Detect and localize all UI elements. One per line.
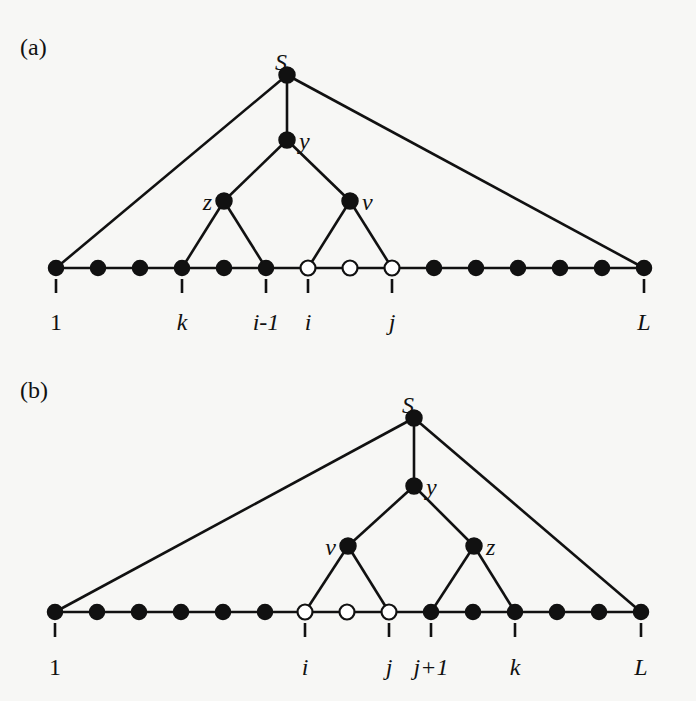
- filled-leaf-node: [133, 261, 148, 276]
- node-label: v: [362, 189, 373, 215]
- position-label: 1: [50, 309, 62, 335]
- position-label: 1: [49, 654, 61, 680]
- node-label: v: [325, 534, 336, 560]
- tree-edge: [224, 140, 287, 201]
- tree-edge: [348, 546, 389, 612]
- filled-leaf-node: [174, 605, 189, 620]
- panel-label: (a): [20, 34, 47, 60]
- tree-edge: [414, 418, 641, 612]
- open-leaf-node: [301, 261, 316, 276]
- diagram-canvas: (a)1ki-1ijLSyzv (b)1ijj+1kLSyvz: [0, 0, 696, 701]
- tree-edge: [55, 418, 414, 612]
- position-label: j+1: [411, 654, 449, 680]
- position-label: j: [386, 309, 396, 335]
- node-label: z: [485, 534, 496, 560]
- filled-leaf-node: [511, 261, 526, 276]
- internal-node-y: [406, 478, 422, 494]
- filled-leaf-node: [469, 261, 484, 276]
- internal-node-y: [279, 132, 295, 148]
- filled-leaf-node: [216, 605, 231, 620]
- tree-edge: [431, 546, 474, 612]
- node-label: z: [202, 189, 213, 215]
- tree-edge: [287, 75, 644, 268]
- tree-edge: [287, 140, 350, 201]
- filled-leaf-node: [49, 261, 64, 276]
- panel-a-tree: (a)1ki-1ijLSyzv: [20, 34, 652, 335]
- position-label: i: [302, 654, 309, 680]
- node-label: S: [402, 392, 414, 418]
- open-leaf-node: [343, 261, 358, 276]
- position-label: i-1: [253, 309, 280, 335]
- filled-leaf-node: [427, 261, 442, 276]
- internal-node-z: [216, 193, 232, 209]
- filled-leaf-node: [424, 605, 439, 620]
- open-leaf-node: [382, 605, 397, 620]
- filled-leaf-node: [90, 605, 105, 620]
- open-leaf-node: [298, 605, 313, 620]
- position-label: j: [383, 654, 393, 680]
- position-label: i: [305, 309, 312, 335]
- node-label: y: [424, 474, 437, 500]
- node-label: S: [275, 49, 287, 75]
- filled-leaf-node: [634, 605, 649, 620]
- filled-leaf-node: [592, 605, 607, 620]
- filled-leaf-node: [637, 261, 652, 276]
- position-label: L: [633, 654, 647, 680]
- filled-leaf-node: [553, 261, 568, 276]
- filled-leaf-node: [466, 605, 481, 620]
- filled-leaf-node: [550, 605, 565, 620]
- tree-edge: [308, 201, 350, 268]
- filled-leaf-node: [175, 261, 190, 276]
- filled-leaf-node: [508, 605, 523, 620]
- tree-edge: [348, 486, 414, 546]
- tree-edge: [56, 75, 287, 268]
- node-label: y: [297, 128, 310, 154]
- filled-leaf-node: [48, 605, 63, 620]
- panel-label: (b): [20, 377, 48, 403]
- filled-leaf-node: [91, 261, 106, 276]
- tree-edge: [414, 486, 474, 546]
- position-label: L: [636, 309, 650, 335]
- filled-leaf-node: [258, 605, 273, 620]
- internal-node-v: [342, 193, 358, 209]
- position-label: k: [177, 309, 188, 335]
- panel-b-tree: (b)1ijj+1kLSyvz: [20, 377, 649, 680]
- open-leaf-node: [385, 261, 400, 276]
- tree-edge: [224, 201, 266, 268]
- filled-leaf-node: [259, 261, 274, 276]
- filled-leaf-node: [217, 261, 232, 276]
- parse-tree-diagram: (a)1ki-1ijLSyzv (b)1ijj+1kLSyvz: [0, 0, 696, 701]
- open-leaf-node: [340, 605, 355, 620]
- filled-leaf-node: [132, 605, 147, 620]
- internal-node-v: [340, 538, 356, 554]
- position-label: k: [510, 654, 521, 680]
- internal-node-z: [466, 538, 482, 554]
- filled-leaf-node: [595, 261, 610, 276]
